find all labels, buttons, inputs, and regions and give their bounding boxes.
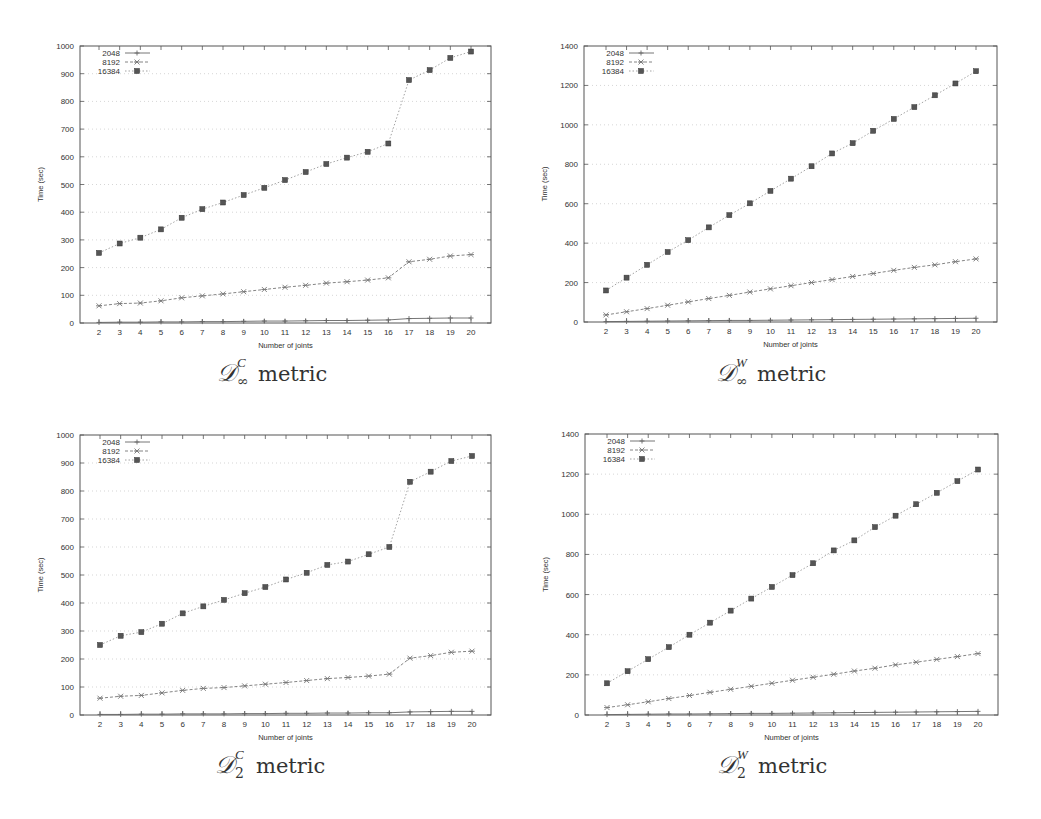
x-marker-icon (666, 696, 672, 701)
x-tick-label: 4 (646, 720, 651, 729)
plus-marker-icon (976, 709, 981, 714)
square-marker-icon (872, 525, 877, 530)
series-8192 (604, 651, 981, 710)
x-tick-label: 10 (767, 720, 776, 729)
square-marker-icon (687, 632, 692, 637)
x-marker-icon (728, 687, 734, 692)
x-tick-label: 5 (667, 720, 672, 729)
square-marker-icon (666, 645, 671, 650)
x-marker-icon (975, 651, 981, 656)
plus-marker-icon (666, 711, 671, 716)
square-marker-icon (811, 561, 816, 566)
x-marker-icon (913, 660, 919, 665)
square-marker-icon (625, 669, 630, 674)
square-marker-icon (893, 513, 898, 518)
square-marker-icon (708, 620, 713, 625)
x-marker-icon (872, 666, 878, 671)
plus-marker-icon (955, 709, 960, 714)
square-marker-icon (749, 596, 754, 601)
x-marker-icon (645, 699, 651, 704)
x-marker-icon (893, 662, 899, 667)
plus-marker-icon (708, 711, 713, 716)
y-tick-label: 600 (566, 591, 580, 600)
plus-marker-icon (625, 712, 630, 717)
x-marker-icon (851, 669, 857, 674)
plus-marker-icon (934, 709, 939, 714)
y-tick-label: 400 (566, 631, 580, 640)
x-tick-label: 18 (932, 720, 941, 729)
x-marker-icon (954, 654, 960, 659)
x-tick-label: 7 (708, 720, 713, 729)
legend-label: 2048 (607, 437, 625, 446)
x-marker-icon (831, 672, 837, 677)
square-marker-icon (646, 657, 651, 662)
square-marker-icon (955, 479, 960, 484)
caption-subscript: 2 (737, 765, 746, 781)
y-tick-label: 1200 (561, 470, 579, 479)
plus-marker-icon (646, 712, 651, 717)
square-marker-icon (934, 490, 939, 495)
x-tick-label: 16 (891, 720, 900, 729)
y-tick-label: 0 (575, 711, 580, 720)
x-marker-icon (748, 684, 754, 689)
x-tick-label: 8 (728, 720, 733, 729)
square-marker-icon (728, 608, 733, 613)
x-marker-icon (810, 675, 816, 680)
caption-superscript: W (737, 747, 748, 763)
plus-marker-icon (872, 710, 877, 715)
x-tick-label: 9 (749, 720, 754, 729)
y-axis-label: Time (sec) (541, 556, 550, 592)
x-marker-icon (625, 702, 631, 707)
legend-label: 8192 (607, 446, 625, 455)
line-chart-d-2-w: 0200400600800100012001400234567891011121… (0, 0, 1041, 819)
square-marker-icon (914, 502, 919, 507)
x-marker-icon (934, 657, 940, 662)
x-tick-label: 15 (870, 720, 879, 729)
y-tick-label: 800 (566, 550, 580, 559)
x-marker-icon (769, 681, 775, 686)
x-tick-label: 19 (953, 720, 962, 729)
y-tick-label: 200 (566, 671, 580, 680)
legend-label: 16384 (603, 455, 626, 464)
square-marker-icon (831, 548, 836, 553)
plus-marker-icon (687, 711, 692, 716)
chart-panel-d-2-w: 0200400600800100012001400234567891011121… (0, 0, 1041, 819)
x-tick-label: 17 (912, 720, 921, 729)
x-tick-label: 13 (829, 720, 838, 729)
x-tick-label: 20 (974, 720, 983, 729)
x-tick-label: 11 (788, 720, 797, 729)
x-tick-label: 3 (625, 720, 630, 729)
x-marker-icon (639, 448, 645, 453)
series-16384 (605, 467, 981, 686)
x-tick-label: 6 (687, 720, 692, 729)
square-marker-icon (976, 467, 981, 472)
caption-word: metric (758, 754, 827, 778)
x-marker-icon (604, 705, 610, 710)
plus-marker-icon (852, 710, 857, 715)
chart-caption-d-2-w: 𝒟W2metric (717, 752, 827, 779)
x-axis-label: Number of joints (764, 733, 819, 742)
x-marker-icon (686, 693, 692, 698)
series-2048 (605, 709, 981, 717)
x-marker-icon (707, 690, 713, 695)
y-tick-label: 1000 (561, 510, 579, 519)
caption-symbol: 𝒟 (717, 752, 736, 778)
plus-marker-icon (914, 709, 919, 714)
square-marker-icon (605, 681, 610, 686)
plus-marker-icon (640, 439, 645, 444)
square-marker-icon (790, 573, 795, 578)
y-tick-label: 1400 (561, 430, 579, 439)
square-marker-icon (640, 457, 645, 462)
x-tick-label: 14 (850, 720, 859, 729)
plus-marker-icon (605, 712, 610, 717)
legend: 2048819216384 (603, 437, 655, 464)
x-tick-label: 12 (809, 720, 818, 729)
plus-marker-icon (893, 710, 898, 715)
x-marker-icon (790, 678, 796, 683)
square-marker-icon (852, 538, 857, 543)
x-tick-label: 2 (605, 720, 610, 729)
square-marker-icon (769, 584, 774, 589)
